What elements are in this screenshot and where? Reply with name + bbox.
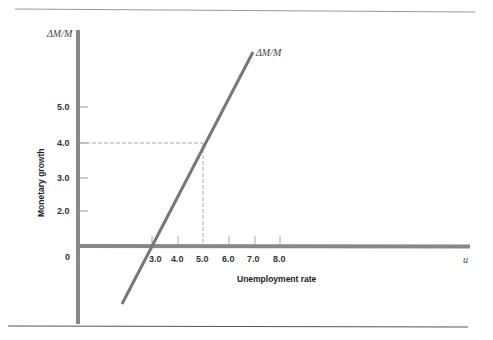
series-label: ΔM/M <box>255 47 282 58</box>
x-tick-3: 3.0 <box>149 254 162 264</box>
y-tick-4: 4.0 <box>57 138 70 148</box>
x-tick-7: 7.0 <box>247 254 260 264</box>
x-tick-5: 5.0 <box>196 254 209 264</box>
y-tick-5: 5.0 <box>57 102 70 112</box>
x-axis-symbol: u <box>463 254 468 265</box>
x-axis <box>78 246 470 247</box>
y-axis-symbol: ΔM/M <box>46 28 73 39</box>
chart: ΔM/M ΔM/M u 5.0 4.0 3.0 2.0 0 3.0 4.0 5.… <box>0 0 493 340</box>
x-tick-6: 6.0 <box>222 254 235 264</box>
origin-label: 0 <box>65 252 70 262</box>
y-axis-title: Monetary growth <box>36 149 46 217</box>
x-tick-4: 4.0 <box>171 254 184 264</box>
x-axis-title: Unemployment rate <box>237 274 317 284</box>
y-tick-2: 2.0 <box>57 206 70 216</box>
x-tick-8: 8.0 <box>273 254 286 264</box>
series-line <box>122 52 253 304</box>
top-rule <box>15 9 475 12</box>
y-tick-3: 3.0 <box>57 173 70 183</box>
bottom-rule <box>8 326 468 327</box>
